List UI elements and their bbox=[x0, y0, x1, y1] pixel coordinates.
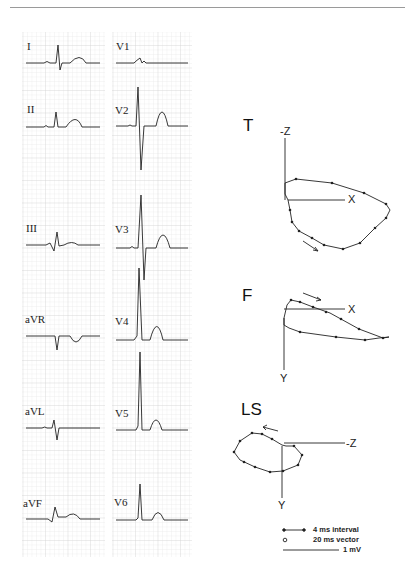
lead-label-III: III bbox=[26, 222, 37, 234]
lead-label-V1: V1 bbox=[116, 40, 129, 52]
axis-label-T-x: X bbox=[348, 193, 355, 205]
lead-label-V2: V2 bbox=[115, 104, 128, 116]
lead-label-V5: V5 bbox=[115, 407, 128, 419]
axis-label-LS-negz: -Z bbox=[346, 437, 356, 449]
axis-label-T-negz: -Z bbox=[280, 125, 290, 137]
axis-label-F-y: Y bbox=[280, 372, 287, 384]
axis-label-LS-y: Y bbox=[278, 499, 285, 511]
legend-scale: 1 mV bbox=[343, 545, 361, 554]
vcg-sagittal bbox=[233, 425, 345, 498]
vcg-transverse bbox=[285, 138, 390, 251]
legend-vector: 20 ms vector bbox=[313, 535, 359, 544]
lead-label-II: II bbox=[27, 103, 34, 115]
lead-label-V6: V6 bbox=[114, 496, 127, 508]
vcg-title-LS: LS bbox=[241, 400, 262, 420]
lead-label-aVR: aVR bbox=[25, 313, 45, 325]
figure-graphics bbox=[0, 0, 412, 575]
lead-label-V4: V4 bbox=[115, 315, 128, 327]
ecg-grid-left bbox=[22, 32, 105, 557]
axis-label-F-x: X bbox=[348, 303, 355, 315]
lead-label-I: I bbox=[27, 40, 31, 52]
lead-label-aVF: aVF bbox=[23, 497, 42, 509]
vcg-frontal bbox=[284, 293, 389, 370]
vcg-title-T: T bbox=[243, 116, 253, 136]
lead-label-aVL: aVL bbox=[25, 405, 45, 417]
vcg-title-F: F bbox=[242, 286, 252, 306]
lead-label-V3: V3 bbox=[115, 223, 128, 235]
legend-interval: 4 ms interval bbox=[313, 525, 359, 534]
